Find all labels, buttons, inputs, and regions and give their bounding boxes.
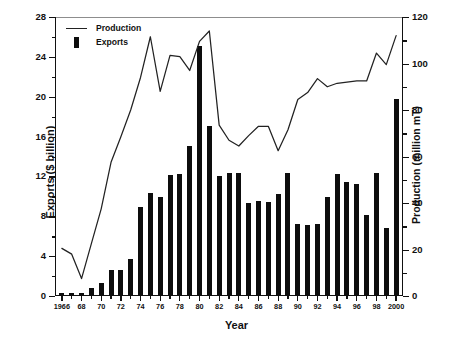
y2-ticklabel-60: 60 — [412, 152, 423, 162]
y-ticklabel-4: 4 — [41, 251, 46, 261]
y2-minortick-10 — [403, 273, 407, 274]
y2-ticklabel-40: 40 — [412, 198, 423, 208]
y-minortick-6 — [52, 236, 56, 237]
y-ticklabel-28: 28 — [35, 12, 46, 22]
y2-tick-20 — [403, 250, 409, 251]
x-tick-1991 — [307, 296, 308, 299]
x-ticklabel-1998: 98 — [372, 303, 380, 311]
y-tick-16 — [49, 137, 55, 138]
x-ticklabel-2000: 2000 — [388, 303, 404, 311]
x-tick-1989 — [287, 296, 288, 299]
chart-figure: Exports ($ billion) Production (million … — [0, 0, 473, 343]
y-tick-4 — [49, 256, 55, 257]
y-ticklabel-0: 0 — [41, 291, 46, 301]
x-tick-1990 — [297, 296, 298, 301]
y2-ticklabel-20: 20 — [412, 245, 423, 255]
y-tick-12 — [49, 176, 55, 177]
x-tick-1993 — [327, 296, 328, 299]
x-tick-1979 — [189, 296, 190, 299]
y-ticklabel-16: 16 — [35, 132, 46, 142]
y2-tick-40 — [403, 203, 409, 204]
x-ticklabel-1966: 1966 — [54, 303, 70, 311]
y2-ticklabel-0: 0 — [412, 291, 417, 301]
y-tick-20 — [49, 97, 55, 98]
line-series-production — [55, 17, 403, 296]
y2-ticklabel-100: 100 — [412, 59, 428, 69]
x-axis-title: Year — [0, 319, 473, 331]
legend-item-exports: Exports — [66, 35, 141, 49]
x-ticklabel-1988: 88 — [274, 303, 282, 311]
y-tick-28 — [49, 17, 55, 18]
x-tick-1967 — [71, 296, 72, 299]
x-tick-1977 — [169, 296, 170, 299]
y-minortick-10 — [52, 196, 56, 197]
legend-bar-icon — [74, 37, 79, 48]
x-tick-1994 — [336, 296, 337, 301]
x-tick-1997 — [366, 296, 367, 299]
y2-tick-0 — [403, 296, 409, 297]
x-ticklabel-1974: 74 — [136, 303, 144, 311]
x-ticklabel-1990: 90 — [294, 303, 302, 311]
legend-label-exports: Exports — [96, 37, 128, 47]
x-ticklabel-1970: 70 — [97, 303, 105, 311]
x-tick-1988 — [278, 296, 279, 301]
y2-minortick-50 — [403, 180, 407, 181]
x-tick-1983 — [228, 296, 229, 299]
x-tick-1968 — [81, 296, 82, 301]
x-tick-1998 — [376, 296, 377, 301]
x-ticklabel-1980: 80 — [195, 303, 203, 311]
x-tick-1972 — [120, 296, 121, 301]
x-tick-1976 — [160, 296, 161, 301]
chart-legend: Production Exports — [66, 21, 141, 49]
y-ticklabel-20: 20 — [35, 92, 46, 102]
y2-minortick-70 — [403, 133, 407, 134]
y2-ticklabel-80: 80 — [412, 105, 423, 115]
x-tick-1980 — [199, 296, 200, 301]
x-ticklabel-1976: 76 — [156, 303, 164, 311]
x-tick-1996 — [356, 296, 357, 301]
y-minortick-2 — [52, 276, 56, 277]
y-minortick-14 — [52, 157, 56, 158]
y2-minortick-110 — [403, 40, 407, 41]
plot-area: 0481216202428 020406080100120 1966687072… — [55, 17, 403, 296]
x-ticklabel-1992: 92 — [313, 303, 321, 311]
x-tick-1982 — [219, 296, 220, 301]
x-tick-1999 — [386, 296, 387, 299]
y-minortick-22 — [52, 77, 56, 78]
x-ticklabel-1986: 86 — [254, 303, 262, 311]
y-tick-8 — [49, 216, 55, 217]
y-ticklabel-12: 12 — [35, 172, 46, 182]
y2-tick-60 — [403, 157, 409, 158]
x-ticklabel-1996: 96 — [353, 303, 361, 311]
y2-ticklabel-120: 120 — [412, 12, 428, 22]
x-ticklabel-1994: 94 — [333, 303, 341, 311]
y2-tick-100 — [403, 64, 409, 65]
x-ticklabel-1968: 68 — [77, 303, 85, 311]
x-tick-1981 — [209, 296, 210, 299]
y2-minortick-90 — [403, 87, 407, 88]
y-tick-24 — [49, 57, 55, 58]
x-tick-1973 — [130, 296, 131, 299]
x-ticklabel-1982: 82 — [215, 303, 223, 311]
x-tick-1985 — [248, 296, 249, 299]
x-tick-1986 — [258, 296, 259, 301]
x-ticklabel-1984: 84 — [235, 303, 243, 311]
x-tick-1969 — [91, 296, 92, 299]
x-tick-1966 — [61, 296, 62, 301]
x-tick-1971 — [110, 296, 111, 299]
x-tick-1984 — [238, 296, 239, 301]
y-tick-0 — [49, 296, 55, 297]
y-ticklabel-24: 24 — [35, 52, 46, 62]
x-tick-2000 — [395, 296, 396, 301]
y-minortick-18 — [52, 117, 56, 118]
x-tick-1974 — [140, 296, 141, 301]
y-ticklabel-8: 8 — [41, 212, 46, 222]
y-minortick-26 — [52, 37, 56, 38]
legend-line-icon — [66, 28, 87, 29]
x-tick-1992 — [317, 296, 318, 301]
legend-label-production: Production — [96, 23, 141, 33]
y2-tick-80 — [403, 110, 409, 111]
legend-item-production: Production — [66, 21, 141, 35]
y2-tick-120 — [403, 17, 409, 18]
x-tick-1987 — [268, 296, 269, 299]
